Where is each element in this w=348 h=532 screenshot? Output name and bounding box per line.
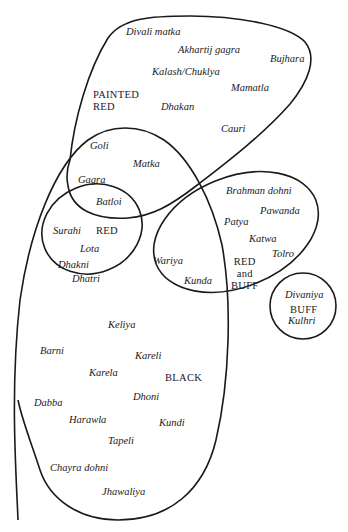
label-and: and (231, 268, 258, 280)
label-red: RED (93, 101, 139, 113)
item-gagra: Gagra (78, 175, 105, 186)
item-patya: Patya (224, 217, 249, 228)
item-dhakan: Dhakan (161, 102, 194, 113)
item-divaniya: Divaniya (285, 290, 324, 301)
item-kareli: Kareli (135, 351, 161, 362)
item-dhakni: Dhakni (58, 260, 89, 271)
label-painted-red: PAINTED RED (93, 89, 139, 113)
item-tapeli: Tapeli (108, 436, 134, 447)
item-dhoni: Dhoni (133, 392, 159, 403)
item-kundi: Kundi (159, 418, 185, 429)
item-cauri: Cauri (221, 124, 246, 135)
item-wariya: Wariya (153, 256, 183, 267)
label-red-and-buff: RED and BUFF (231, 256, 258, 292)
item-chayra-dohni: Chayra dohni (50, 463, 108, 474)
item-bujhara: Bujhara (270, 54, 304, 65)
item-kalash-chuklya: Kalash/Chuklya (152, 67, 220, 78)
item-pawanda: Pawanda (260, 206, 300, 217)
item-goli: Goli (90, 141, 109, 152)
label-black: BLACK (165, 372, 202, 384)
label-red-2: RED (231, 256, 258, 268)
item-karela: Karela (89, 368, 118, 379)
item-barni: Barni (40, 346, 64, 357)
item-brahman-dohni: Brahman dohni (226, 186, 292, 197)
label-red-category: RED (96, 225, 118, 237)
item-divali-matka: Divali matka (126, 27, 181, 38)
item-matka: Matka (133, 159, 160, 170)
item-lota: Lota (80, 244, 99, 255)
red-region-outline (28, 169, 156, 289)
item-harawla: Harawla (69, 415, 106, 426)
item-batloi: Batloi (96, 197, 122, 208)
label-painted: PAINTED (93, 89, 139, 101)
label-buff-2: BUFF (231, 280, 258, 292)
item-dabba: Dabba (34, 398, 63, 409)
item-keliya: Keliya (108, 320, 135, 331)
item-surahi: Surahi (53, 226, 81, 237)
item-tolro: Tolro (272, 249, 294, 260)
item-mamatla: Mamatla (231, 83, 269, 94)
item-jhawaliya: Jhawaliya (102, 487, 145, 498)
item-kulhri: Kulhri (288, 316, 315, 327)
item-kunda: Kunda (184, 276, 212, 287)
item-akhartij-gagra: Akhartij gagra (178, 45, 240, 56)
item-katwa: Katwa (249, 234, 276, 245)
item-dhatri: Dhatri (72, 274, 100, 285)
